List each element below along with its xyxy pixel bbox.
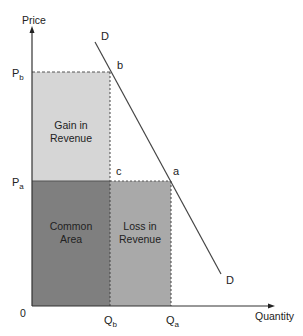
gain-region-label-line2: Revenue — [50, 132, 92, 144]
point-a-label: a — [173, 165, 180, 177]
x-axis-arrow-icon — [268, 304, 275, 309]
pb-label: Pb — [12, 67, 24, 82]
y-axis-label: Price — [22, 14, 46, 26]
y-axis-arrow-icon — [30, 26, 35, 33]
common-region-label-line2: Area — [60, 233, 82, 245]
origin-label: 0 — [20, 307, 26, 319]
common-region-label-line1: Common — [50, 220, 93, 232]
pa-label: Pa — [12, 176, 24, 191]
demand-top-label: D — [101, 30, 109, 42]
gain-region-label-line1: Gain in — [54, 119, 87, 131]
qa-label: Qa — [166, 314, 180, 329]
loss-region-label-line1: Loss in — [123, 220, 156, 232]
point-b-label: b — [117, 59, 123, 71]
demand-bottom-label: D — [226, 274, 234, 286]
x-axis-label: Quantity — [255, 310, 295, 322]
point-c-label: c — [116, 165, 122, 177]
loss-region-label-line2: Revenue — [119, 233, 161, 245]
qb-label: Qb — [104, 314, 118, 329]
price-quantity-diagram: Price Quantity 0 Pb Pa Qb Qa D D b a c G… — [0, 0, 303, 336]
